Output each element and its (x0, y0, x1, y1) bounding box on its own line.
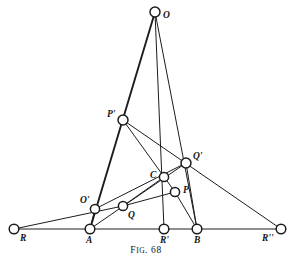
point-label-C: C (150, 171, 156, 181)
caption-small-caps: IG (136, 246, 145, 255)
vertex-B (192, 224, 202, 234)
vertex-Op (90, 204, 99, 213)
vertex-Qp (181, 158, 191, 168)
vertex-R (9, 224, 19, 234)
vertex-Pp (118, 115, 128, 125)
point-label-P: P (183, 186, 189, 196)
vertex-P (170, 187, 179, 196)
segment-Pp-to-Rpp-through-Qp (123, 120, 281, 229)
point-label-Op: O' (80, 196, 90, 206)
vertex-Rp (159, 224, 169, 234)
point-label-O: O (163, 11, 170, 21)
figure-canvas (0, 0, 292, 264)
point-label-Rpp: R'' (262, 234, 274, 244)
segment-Q-to-P (123, 192, 175, 206)
point-label-R: R (20, 234, 26, 244)
geometric-figure-68: OP'Q'CPO'QRAR'BR'' FIG. 68 (0, 0, 292, 264)
segments-layer (14, 12, 281, 229)
vertex-Q (118, 201, 127, 210)
vertex-O (150, 7, 160, 17)
figure-caption: FIG. 68 (0, 245, 292, 255)
caption-suffix: . 68 (145, 245, 162, 255)
vertex-A (85, 224, 95, 234)
vertex-Rpp (276, 224, 286, 234)
point-label-Qp: Q' (193, 152, 203, 162)
point-label-Pp: P' (107, 110, 115, 120)
point-label-Q: Q (128, 211, 135, 221)
vertex-C (159, 172, 168, 181)
